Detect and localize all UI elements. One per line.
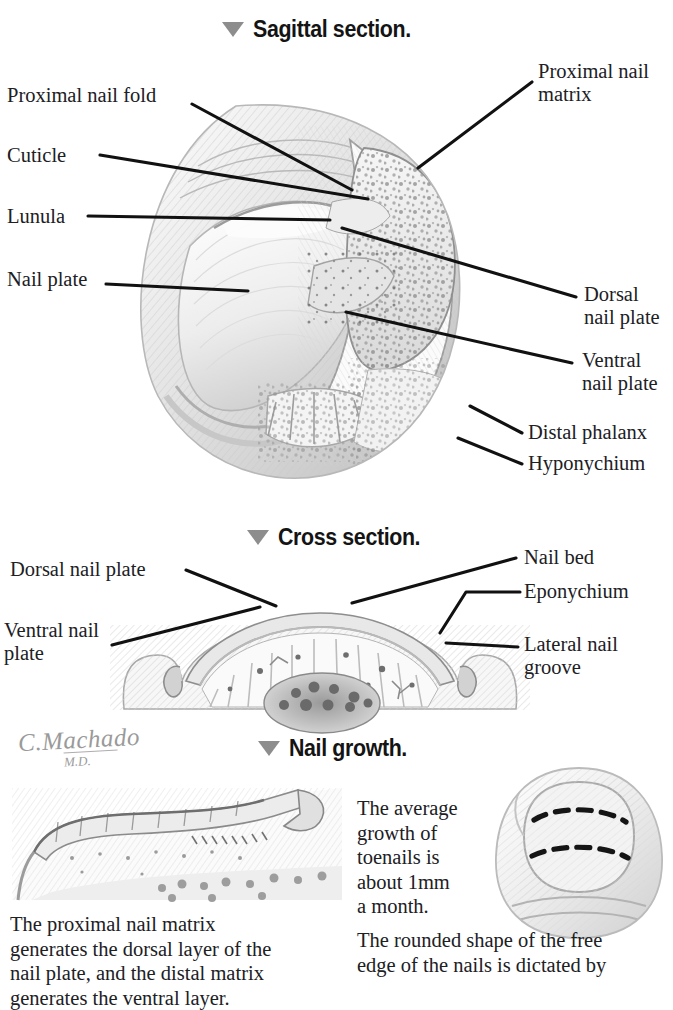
label-cross-dorsal-nail-plate: Dorsal nail plate <box>10 558 145 581</box>
caption-rounded-shape: The rounded shape of the free edge of th… <box>357 928 673 977</box>
label-hyponychium: Hyponychium <box>528 452 645 475</box>
signature-credential: M.D. <box>64 750 119 771</box>
label-proximal-nail-fold: Proximal nail fold <box>7 84 156 107</box>
section-heading-cross: Cross section. <box>247 524 431 551</box>
label-proximal-nail-matrix: Proximal nail matrix <box>538 60 649 107</box>
triangle-down-icon <box>247 530 269 545</box>
section-heading-sagittal: Sagittal section. <box>222 16 423 43</box>
section-title: Nail growth. <box>289 735 407 762</box>
label-lateral-nail-groove: Lateral nail groove <box>524 633 618 680</box>
section-title: Sagittal section. <box>253 16 411 43</box>
triangle-down-icon <box>222 22 244 37</box>
label-dorsal-nail-plate: Dorsal nail plate <box>584 283 660 330</box>
label-distal-phalanx: Distal phalanx <box>528 421 647 444</box>
section-title: Cross section. <box>278 524 420 551</box>
artist-signature: C.Machado M.D. <box>18 726 140 769</box>
label-eponychium: Eponychium <box>524 580 629 603</box>
caption-proximal-matrix: The proximal nail matrix generates the d… <box>10 912 350 1010</box>
label-nail-bed: Nail bed <box>524 546 594 569</box>
triangle-down-icon <box>258 741 280 756</box>
toe-nail-artwork <box>484 764 673 939</box>
label-nail-plate: Nail plate <box>7 268 87 291</box>
cross-section-artwork <box>110 585 530 710</box>
section-heading-growth: Nail growth. <box>258 735 416 762</box>
label-cuticle: Cuticle <box>7 144 66 167</box>
nail-growth-profile-artwork <box>12 788 342 900</box>
label-ventral-nail-plate: Ventral nail plate <box>582 349 658 396</box>
caption-average-growth: The average growth of toenails is about … <box>357 796 458 919</box>
label-lunula: Lunula <box>7 205 65 228</box>
sagittal-artwork <box>118 96 548 496</box>
label-cross-ventral-nail-plate: Ventral nail plate <box>4 619 99 666</box>
